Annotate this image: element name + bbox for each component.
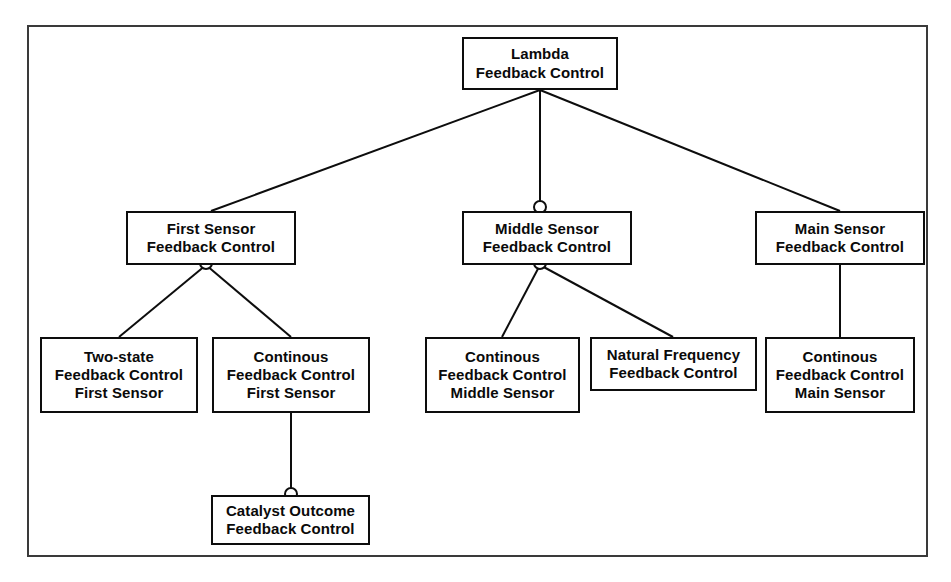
node-continous-feedback-control-middle-sensor[interactable]: Continous Feedback Control Middle Sensor [425, 337, 580, 413]
node-line-1: Two-state [84, 348, 154, 366]
node-line-1: Lambda [511, 45, 569, 63]
node-main-sensor-feedback-control[interactable]: Main Sensor Feedback Control [755, 211, 925, 265]
node-line-2: Feedback Control [476, 64, 604, 82]
node-continous-feedback-control-first-sensor[interactable]: Continous Feedback Control First Sensor [212, 337, 370, 413]
node-line-2: Feedback Control [483, 238, 611, 256]
node-line-1: Natural Frequency [607, 346, 740, 364]
node-line-2: Feedback Control [227, 366, 355, 384]
node-line-1: Continous [253, 348, 328, 366]
node-line-3: First Sensor [247, 384, 336, 402]
node-line-2: Feedback Control [776, 366, 904, 384]
node-line-2: Feedback Control [55, 366, 183, 384]
node-line-2: Feedback Control [147, 238, 275, 256]
node-catalyst-outcome-feedback-control[interactable]: Catalyst Outcome Feedback Control [211, 495, 370, 545]
node-line-3: Middle Sensor [451, 384, 555, 402]
node-line-2: Feedback Control [776, 238, 904, 256]
node-line-2: Feedback Control [226, 520, 354, 538]
node-line-2: Feedback Control [609, 364, 737, 382]
diagram-canvas: Lambda Feedback Control First Sensor Fee… [0, 0, 951, 582]
node-line-1: First Sensor [167, 220, 256, 238]
node-line-1: Main Sensor [795, 220, 885, 238]
node-lambda-feedback-control[interactable]: Lambda Feedback Control [462, 37, 618, 90]
node-continous-feedback-control-main-sensor[interactable]: Continous Feedback Control Main Sensor [765, 337, 915, 413]
node-line-1: Catalyst Outcome [226, 502, 355, 520]
diagram-frame-border [27, 25, 928, 557]
node-line-2: Feedback Control [438, 366, 566, 384]
node-middle-sensor-feedback-control[interactable]: Middle Sensor Feedback Control [462, 211, 632, 265]
node-line-1: Continous [802, 348, 877, 366]
node-line-3: First Sensor [75, 384, 164, 402]
node-first-sensor-feedback-control[interactable]: First Sensor Feedback Control [126, 211, 296, 265]
node-two-state-feedback-control-first-sensor[interactable]: Two-state Feedback Control First Sensor [40, 337, 198, 413]
node-line-1: Middle Sensor [495, 220, 599, 238]
node-natural-frequency-feedback-control[interactable]: Natural Frequency Feedback Control [590, 337, 757, 391]
node-line-1: Continous [465, 348, 540, 366]
node-line-3: Main Sensor [795, 384, 885, 402]
